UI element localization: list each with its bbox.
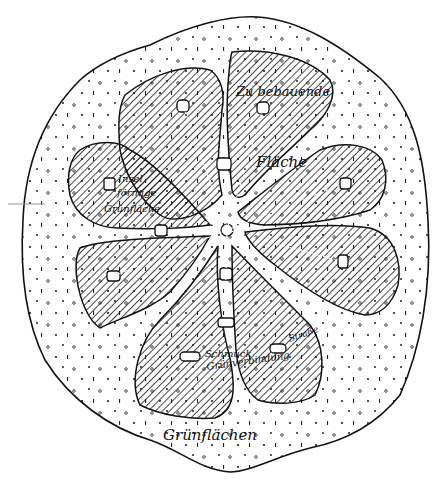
garden-city-plan-diagram: Zu bebauende Fläche Insel förmige Grünfl…: [0, 0, 441, 479]
label-island-line1: Insel: [117, 173, 143, 184]
label-island-line2: förmige: [116, 187, 157, 198]
label-built-area-line2: Fläche: [255, 153, 307, 171]
label-built-area-line1: Zu bebauende: [235, 84, 330, 99]
label-green-areas: Grünflächen: [163, 426, 257, 444]
label-island-line3: Grünfläche: [104, 203, 160, 214]
